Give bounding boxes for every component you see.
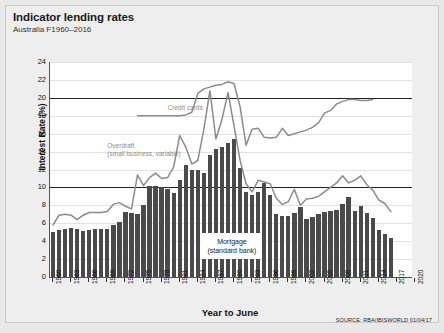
y-axis-ticks: 024681012141618202224 [30,62,46,277]
y-tick-label: 18 [38,112,46,120]
x-tick-mark [378,278,379,282]
x-tick-mark [197,278,198,282]
annotation-mortgage-line1: Mortgage [207,237,256,246]
x-tick-label: 2002 [308,270,315,284]
x-tick-label: 1960 [55,270,62,284]
annotation-mortgage: Mortgage (standard bank) [201,233,262,259]
x-tick-mark [161,278,162,282]
annotation-overdraft: Overdraft (small business, variable) [107,142,180,158]
x-tick-mark [324,278,325,282]
x-tick-label: 2017 [398,270,405,284]
x-tick-mark [251,278,252,282]
x-tick-mark [269,278,270,282]
x-tick-label: 2020 [417,270,424,284]
plot-area: Credit cards Overdraft (small business, … [49,62,412,278]
x-tick-label: 1966 [91,270,98,284]
y-tick-label: 14 [38,148,46,156]
x-tick-mark [143,278,144,282]
x-tick-label: 1984 [199,270,206,284]
x-tick-mark [124,278,125,282]
y-tick-label: 24 [38,58,46,66]
chart-subtitle: Australia F1960–2016 [13,25,91,34]
x-tick-label: 1963 [73,270,80,284]
y-tick-label: 4 [42,237,46,245]
x-tick-mark [179,278,180,282]
x-tick-label: 1978 [163,270,170,284]
y-tick-label: 16 [38,130,46,138]
y-tick-label: 22 [38,76,46,84]
y-tick-label: 12 [38,166,46,174]
x-tick-label: 2014 [380,270,387,284]
x-tick-mark [287,278,288,282]
annotation-overdraft-line1: Overdraft [107,142,180,150]
source-note: SOURCE: RBA/IBISWORLD 01/04/17 [336,317,432,323]
x-tick-mark [414,278,415,282]
x-tick-mark [106,278,107,282]
x-tick-mark [70,278,71,282]
x-tick-label: 1987 [217,270,224,284]
y-tick-label: 0 [42,273,46,281]
y-tick-label: 20 [38,94,46,102]
x-tick-label: 2011 [362,270,369,284]
x-tick-mark [396,278,397,282]
x-tick-mark [215,278,216,282]
line-series [138,82,373,146]
x-tick-label: 1999 [290,270,297,284]
x-tick-label: 1990 [236,270,243,284]
x-tick-mark [342,278,343,282]
x-tick-mark [52,278,53,282]
annotation-mortgage-line2: (standard bank) [207,246,256,255]
x-tick-label: 1993 [254,270,261,284]
line-series [53,91,391,225]
x-tick-mark [360,278,361,282]
x-tick-mark [305,278,306,282]
chart-figure: Indicator lending rates Australia F1960–… [0,0,444,333]
x-tick-label: 1969 [109,270,116,284]
x-tick-label: 1981 [181,270,188,284]
x-tick-label: 2005 [326,270,333,284]
y-tick-label: 10 [38,183,46,191]
x-tick-mark [88,278,89,282]
y-tick-label: 8 [42,201,46,209]
x-tick-label: 1975 [145,270,152,284]
annotation-overdraft-line2: (small business, variable) [107,150,180,158]
annotation-credit-cards: Credit cards [168,104,203,112]
x-tick-mark [233,278,234,282]
x-tick-label: 1996 [272,270,279,284]
x-tick-label: 1972 [127,270,134,284]
x-tick-label: 2008 [344,270,351,284]
y-tick-label: 2 [42,255,46,263]
chart-title: Indicator lending rates [13,11,134,23]
y-tick-label: 6 [42,219,46,227]
